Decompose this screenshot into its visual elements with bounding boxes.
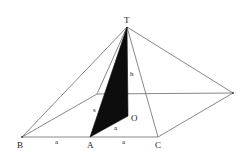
label-a-BA: a [55, 138, 59, 146]
label-A: A [87, 140, 94, 150]
shaded-triangle-TAO [90, 27, 128, 137]
base-edge-right [158, 93, 233, 137]
vertex-dot-B [21, 136, 23, 138]
label-C: C [155, 140, 161, 150]
pyramid-diagram: T h s O a B a A a C [0, 0, 249, 158]
vertex-dot-right [232, 92, 234, 94]
base-edge-left [22, 94, 97, 137]
label-a-AC: a [122, 138, 126, 146]
label-a-AO: a [114, 124, 118, 132]
label-O: O [131, 113, 138, 123]
label-T: T [124, 15, 130, 25]
label-B: B [17, 140, 23, 150]
label-h: h [130, 70, 134, 78]
label-s: s [93, 106, 96, 114]
